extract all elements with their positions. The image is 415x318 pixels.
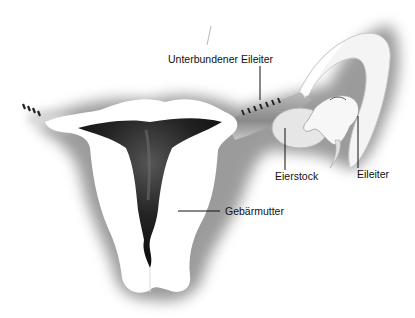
label-uterus: Gebärmutter xyxy=(225,206,284,217)
stray-mark xyxy=(207,26,211,45)
label-fallopian-tube: Eileiter xyxy=(357,169,389,180)
uterus xyxy=(45,99,237,293)
uterus-diagram xyxy=(0,0,415,318)
label-ligated-tube: Unterbundener Eileiter xyxy=(168,54,273,65)
label-ovary: Eierstock xyxy=(275,171,318,182)
